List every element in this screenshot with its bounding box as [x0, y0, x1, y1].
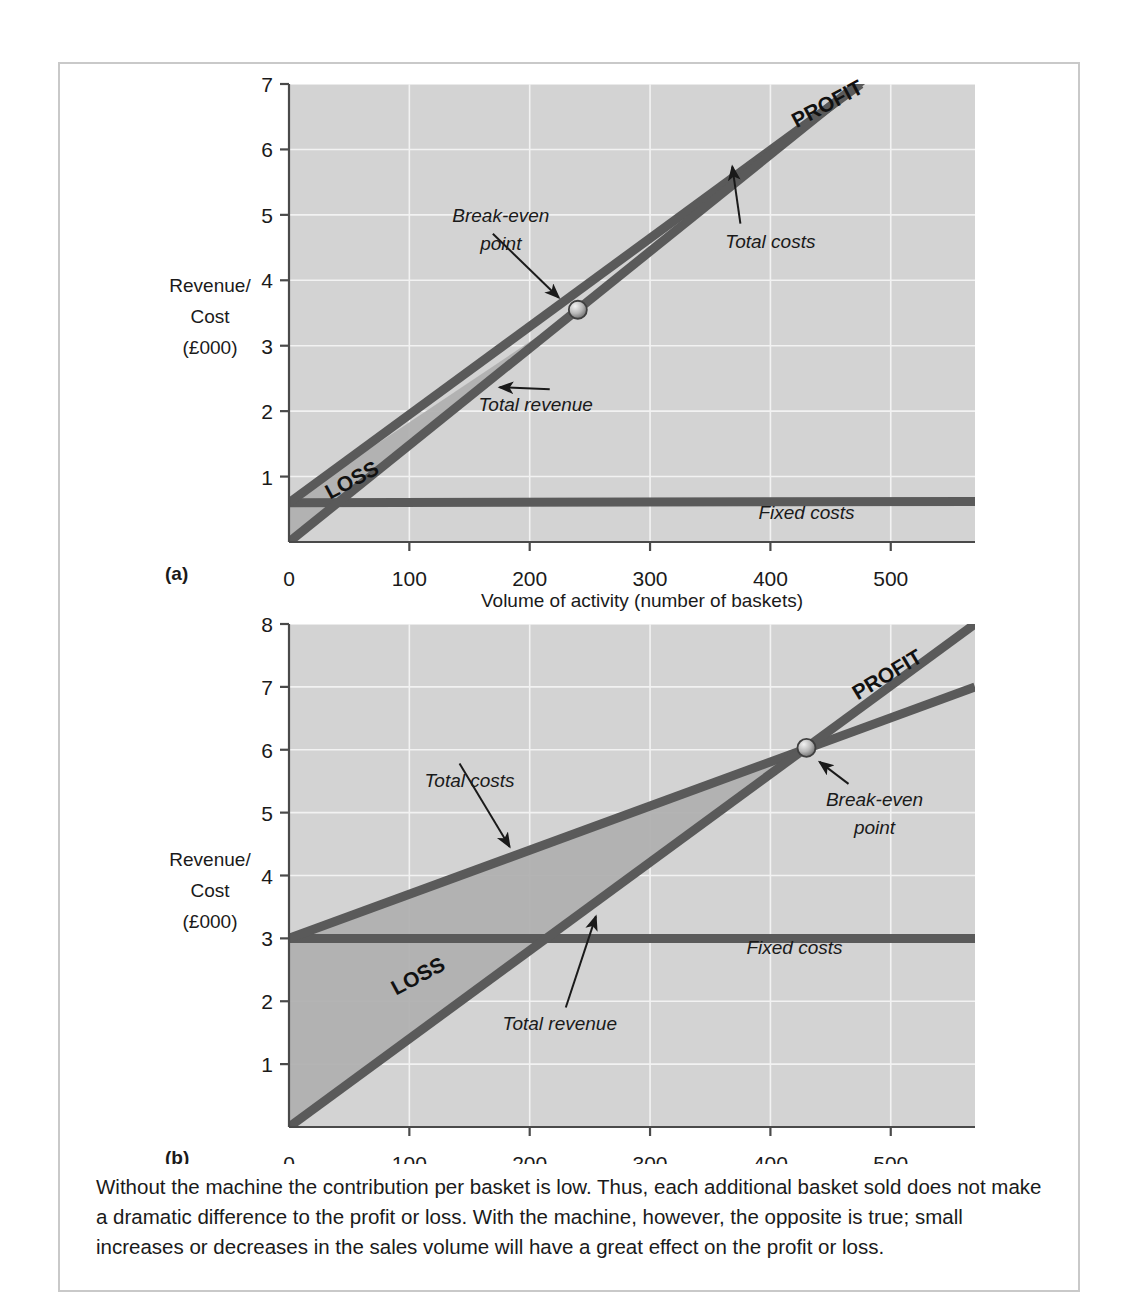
y-axis-tick-label: 6 [261, 138, 273, 161]
y-axis-title-line: (£000) [183, 337, 238, 358]
x-axis-tick-label: 400 [753, 567, 788, 590]
y-axis-title-line: (£000) [183, 911, 238, 932]
figure-frame: 12345670100200300400500Volume of activit… [58, 62, 1080, 1292]
y-axis-tick-label: 3 [261, 927, 273, 950]
y-axis-tick-label: 5 [261, 204, 273, 227]
total-revenue-label: Total revenue [503, 1013, 617, 1034]
plot-background [289, 84, 975, 542]
total-costs-label: Total costs [725, 231, 816, 252]
figure-caption: Without the machine the contribution per… [96, 1172, 1048, 1262]
y-axis-tick-label: 7 [261, 676, 273, 699]
panel-label: (a) [165, 563, 188, 584]
y-axis-title-line: Revenue/ [169, 275, 251, 296]
x-axis-tick-label: 300 [633, 1152, 668, 1164]
y-axis-title-line: Cost [190, 306, 230, 327]
x-axis-tick-label: 0 [283, 1152, 295, 1164]
y-axis-tick-label: 5 [261, 802, 273, 825]
fixed-costs-label: Fixed costs [746, 937, 843, 958]
break-even-label-line2: point [853, 817, 896, 838]
break-even-marker [798, 739, 816, 757]
y-axis-tick-label: 1 [261, 1053, 273, 1076]
chart-a: 12345670100200300400500Volume of activit… [60, 64, 1078, 624]
y-axis-title-line: Revenue/ [169, 849, 251, 870]
fixed-costs-label: Fixed costs [758, 502, 855, 523]
y-axis-tick-label: 6 [261, 739, 273, 762]
chart-b: 123456780100200300400500Volume of activi… [60, 604, 1078, 1164]
y-axis-title-line: Cost [190, 880, 230, 901]
x-axis-tick-label: 400 [753, 1152, 788, 1164]
total-revenue-label: Total revenue [479, 394, 593, 415]
x-axis-tick-label: 500 [873, 567, 908, 590]
y-axis-tick-label: 8 [261, 613, 273, 636]
break-even-label-line1: Break-even [826, 789, 923, 810]
break-even-label-line1: Break-even [452, 205, 549, 226]
break-even-marker [569, 301, 587, 319]
y-axis-tick-label: 7 [261, 73, 273, 96]
x-axis-tick-label: 300 [633, 567, 668, 590]
series-line-fixed-costs [289, 501, 975, 502]
x-axis-tick-label: 0 [283, 567, 295, 590]
panel-label: (b) [165, 1147, 189, 1164]
y-axis-tick-label: 3 [261, 335, 273, 358]
y-axis-tick-label: 4 [261, 865, 273, 888]
break-even-label-line2: point [479, 233, 522, 254]
y-axis-tick-label: 1 [261, 466, 273, 489]
x-axis-tick-label: 100 [392, 1152, 427, 1164]
x-axis-tick-label: 500 [873, 1152, 908, 1164]
y-axis-tick-label: 2 [261, 400, 273, 423]
x-axis-tick-label: 200 [512, 567, 547, 590]
caption-text: Without the machine the contribution per… [96, 1172, 1048, 1262]
y-axis-tick-label: 2 [261, 990, 273, 1013]
x-axis-tick-label: 200 [512, 1152, 547, 1164]
x-axis-tick-label: 100 [392, 567, 427, 590]
y-axis-tick-label: 4 [261, 269, 273, 292]
